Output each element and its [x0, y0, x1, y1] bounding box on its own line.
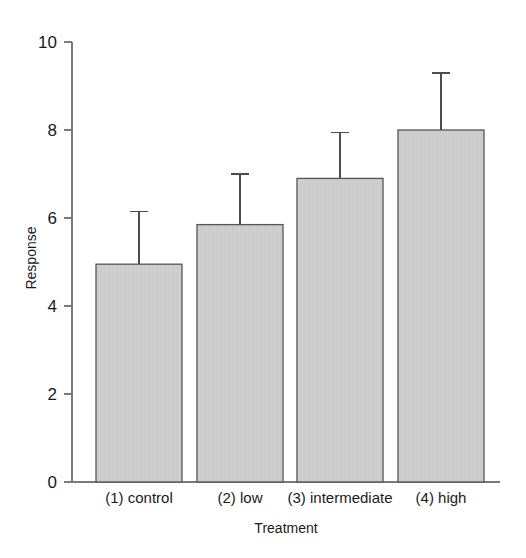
- y-tick-label: 4: [48, 297, 57, 316]
- y-axis-title: Response: [23, 226, 39, 289]
- x-axis-title: Treatment: [254, 520, 317, 536]
- x-category-label: (2) low: [217, 489, 262, 506]
- y-tick-label: 6: [48, 209, 57, 228]
- bar: [297, 178, 383, 482]
- bar: [197, 225, 283, 482]
- bar: [398, 130, 484, 482]
- x-category-label: (3) intermediate: [287, 489, 392, 506]
- x-category-label: (4) high: [416, 489, 467, 506]
- y-tick-label: 2: [48, 385, 57, 404]
- chart-canvas: 0246810 (1) control(2) low(3) intermedia…: [0, 0, 526, 558]
- bar: [96, 264, 182, 482]
- x-category-label: (1) control: [105, 489, 173, 506]
- bar-chart-figure: 0246810 (1) control(2) low(3) intermedia…: [0, 0, 526, 558]
- y-tick-label: 10: [38, 33, 57, 52]
- y-tick-label: 0: [48, 473, 57, 492]
- y-tick-label: 8: [48, 121, 57, 140]
